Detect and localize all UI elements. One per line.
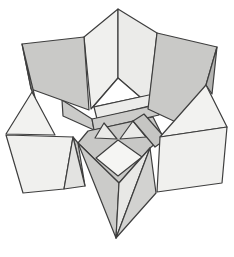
origami-star-diagram <box>0 0 234 257</box>
figure-canvas <box>0 0 234 257</box>
right-point-quad <box>157 127 227 192</box>
left-point-quad <box>6 135 73 193</box>
left-point-top-tri <box>6 92 55 135</box>
